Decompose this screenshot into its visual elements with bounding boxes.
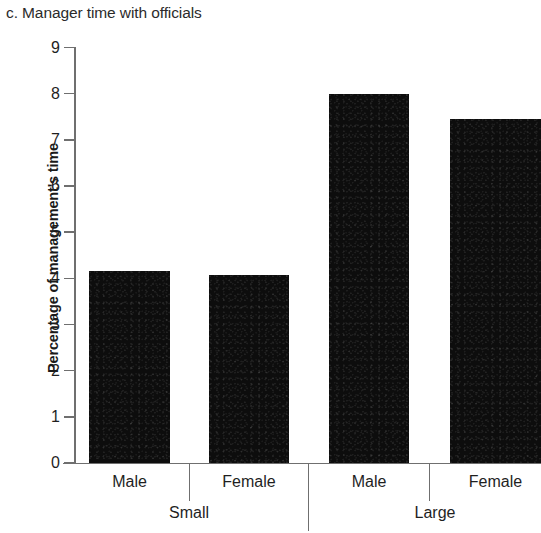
x-axis-category-label: Male <box>89 473 170 491</box>
y-axis-tick <box>64 370 75 372</box>
x-axis-group-label: Large <box>329 504 541 522</box>
y-axis-tick-label: 1 <box>36 408 60 426</box>
bar <box>209 275 289 463</box>
bar <box>89 271 170 463</box>
y-axis-tick <box>64 324 75 326</box>
y-axis-tick <box>64 231 75 233</box>
y-axis-tick-label: 7 <box>36 131 60 149</box>
y-axis-tick <box>64 416 75 418</box>
plot-area: 9876543210 MaleFemaleMaleFemaleSmallLarg… <box>0 0 541 533</box>
y-axis-tick-label: 0 <box>36 454 60 472</box>
bar <box>450 119 541 463</box>
x-axis-category-label: Female <box>450 473 541 491</box>
y-axis-tick <box>64 93 75 95</box>
category-divider-large <box>429 463 431 501</box>
y-axis-tick-label: 9 <box>36 39 60 57</box>
y-axis-line <box>74 47 76 464</box>
group-divider <box>308 463 310 531</box>
x-axis-category-label: Male <box>329 473 409 491</box>
bar-chart-figure: c. Manager time with officials Percentag… <box>0 0 541 533</box>
y-axis-tick-label: 8 <box>36 85 60 103</box>
x-axis-category-label: Female <box>209 473 289 491</box>
y-axis-tick <box>64 462 75 464</box>
y-axis-tick <box>64 139 75 141</box>
x-axis-group-label: Small <box>89 504 289 522</box>
y-axis-tick-label: 2 <box>36 362 60 380</box>
y-axis-tick-label: 5 <box>36 223 60 241</box>
y-axis-tick-label: 6 <box>36 177 60 195</box>
y-axis-tick-label: 3 <box>36 316 60 334</box>
y-axis-tick <box>64 278 75 280</box>
y-axis-tick <box>64 47 75 49</box>
category-divider-small <box>189 463 191 501</box>
y-axis-tick-label: 4 <box>36 269 60 287</box>
bar <box>329 94 409 463</box>
y-axis-tick <box>64 185 75 187</box>
